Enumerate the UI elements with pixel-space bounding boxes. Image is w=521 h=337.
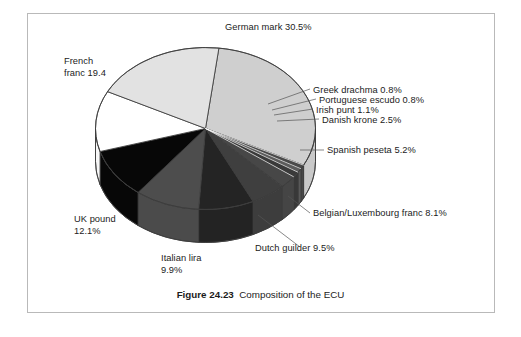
slice-label-dutch-guilder: Dutch guilder 9.5% xyxy=(255,243,334,255)
slice-label-italian-lira: Italian lira 9.9% xyxy=(161,253,201,276)
slice-label-belgian-luxembourg-franc: Belgian/Luxembourg franc 8.1% xyxy=(313,208,447,220)
figure-caption: Figure 24.23 Composition of the ECU xyxy=(0,289,521,300)
slice-label-danish-krone: Danish krone 2.5% xyxy=(322,115,401,127)
slice-label-french-franc: French franc 19.4 xyxy=(64,56,106,79)
slice-label-spanish-peseta: Spanish peseta 5.2% xyxy=(327,145,416,157)
caption-number: Figure 24.23 xyxy=(177,289,234,300)
caption-title: Composition of the ECU xyxy=(239,289,344,300)
pie-side-portuguese-escudo xyxy=(298,169,301,205)
pie-side-irish-punt xyxy=(294,172,298,210)
slice-label-uk-pound: UK pound 12.1% xyxy=(74,214,116,237)
pie-chart-3d xyxy=(0,0,521,337)
slice-label-german-mark: German mark 30.5% xyxy=(225,22,312,34)
figure-container: German mark 30.5% French franc 19.4 Gree… xyxy=(0,0,521,337)
